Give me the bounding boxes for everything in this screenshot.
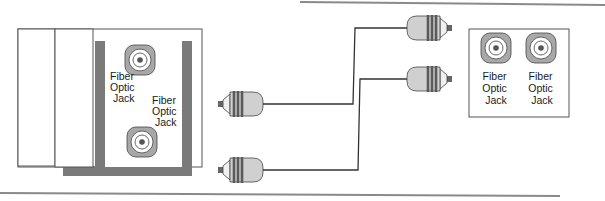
connector-ring xyxy=(233,157,236,183)
right-wall-plate: Fiber Optic Jack Fiber Optic Jack xyxy=(469,29,569,117)
jack-label: Fiber Optic Jack xyxy=(110,70,137,104)
fiber-optic-jack[interactable] xyxy=(127,127,157,157)
connector-nose xyxy=(440,69,447,89)
frame-left-bar xyxy=(95,41,105,176)
connector-ring xyxy=(241,91,244,117)
jack-label: Fiber Optic Jack xyxy=(152,94,179,128)
jack-ferrule-icon xyxy=(538,45,544,51)
side-panel-outer xyxy=(18,29,55,166)
fiber-optic-jack[interactable] xyxy=(481,33,511,63)
side-panel-inner xyxy=(55,29,93,167)
connector-tip xyxy=(447,25,452,31)
fiber-optic-jack[interactable] xyxy=(526,33,556,63)
connector-ring xyxy=(431,66,434,92)
jack-label: Fiber Optic Jack xyxy=(482,70,509,106)
fiber-connector-left-lower[interactable] xyxy=(218,157,263,183)
connector-ring xyxy=(233,91,236,117)
connector-tip xyxy=(218,101,223,107)
jack-ferrule-icon xyxy=(137,57,143,63)
frame-right-bar xyxy=(182,41,192,176)
jack-ferrule-icon xyxy=(493,45,499,51)
jack-label: Fiber Optic Jack xyxy=(528,70,555,106)
cable-2[interactable] xyxy=(262,79,410,170)
fiber-connector-left-upper[interactable] xyxy=(218,91,263,117)
jack-ferrule-icon xyxy=(139,139,145,145)
connector-ring xyxy=(435,66,438,92)
fiber-optic-diagram: Fiber Optic Jack Fiber Optic Jack Fiber … xyxy=(0,0,605,201)
cable-1[interactable] xyxy=(262,28,412,104)
connector-nose xyxy=(223,94,230,114)
connector-ring xyxy=(241,157,244,183)
fiber-connector-right-upper[interactable] xyxy=(407,15,452,41)
connector-nose xyxy=(223,160,230,180)
connector-ring xyxy=(435,15,438,41)
connector-tip xyxy=(218,167,223,173)
fiber-connector-right-lower[interactable] xyxy=(407,66,452,92)
connector-ring xyxy=(427,66,430,92)
connector-ring xyxy=(427,15,430,41)
connector-tip xyxy=(447,76,452,82)
connector-nose xyxy=(440,18,447,38)
connector-ring xyxy=(237,157,240,183)
connector-ring xyxy=(237,91,240,117)
connector-ring xyxy=(431,15,434,41)
left-wall-plate: Fiber Optic Jack Fiber Optic Jack xyxy=(18,29,202,176)
top-rule xyxy=(300,2,605,5)
bottom-rule xyxy=(0,193,560,196)
